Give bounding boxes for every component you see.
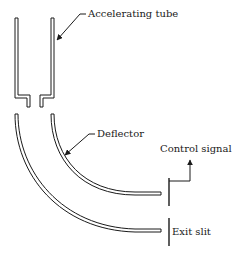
deflector-label: Deflector: [97, 128, 144, 139]
accelerating-tube-label: Accelerating tube: [87, 8, 178, 19]
exit-slit-label: Exit slit: [172, 226, 211, 237]
accelerating-tube: [15, 18, 54, 107]
deflector-leader: [65, 134, 95, 155]
control-signal-label: Control signal: [160, 143, 232, 154]
accelerating-tube-leader: [57, 14, 86, 40]
control-signal-connector: [169, 160, 190, 181]
deflector-diagram: Accelerating tube Deflector Control sign…: [0, 0, 235, 264]
inner-deflector-plate: [51, 114, 161, 195]
leader-lines: [57, 14, 95, 155]
